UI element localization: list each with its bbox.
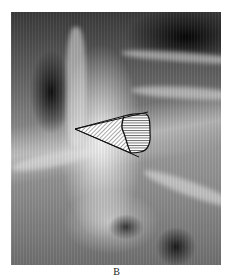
wedge-diagram <box>0 0 233 279</box>
figure-label: B <box>0 266 233 277</box>
